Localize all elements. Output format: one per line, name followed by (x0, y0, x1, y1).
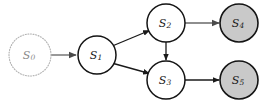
node-s3[interactable]: S3 (147, 61, 185, 99)
nodes-layer: S0S1S2S3S4S5 (9, 4, 258, 99)
node-label-base-s1: S (90, 49, 98, 62)
node-label-subscript-s4: 4 (239, 21, 245, 30)
node-label-subscript-s2: 2 (166, 21, 172, 30)
node-label-base-s5: S (232, 74, 240, 87)
node-s2[interactable]: S2 (147, 4, 185, 42)
node-label-subscript-s3: 3 (167, 78, 172, 87)
node-s1[interactable]: S1 (78, 36, 116, 74)
edge-s1-to-s3 (114, 64, 150, 74)
node-s4[interactable]: S4 (220, 4, 258, 42)
edge-s1-to-s2 (114, 31, 150, 46)
state-diagram-canvas: S0S1S2S3S4S5 (0, 0, 264, 106)
node-label-subscript-s1: 1 (98, 53, 103, 62)
node-label-base-s3: S (159, 74, 167, 87)
node-label-base-s2: S (159, 17, 167, 30)
node-label-subscript-s5: 5 (240, 78, 245, 87)
node-label-subscript-s0: 0 (31, 53, 36, 62)
node-label-base-s0: S (23, 49, 31, 62)
edges-layer (51, 23, 219, 80)
state-diagram-svg: S0S1S2S3S4S5 (0, 0, 264, 106)
node-label-base-s4: S (232, 17, 240, 30)
node-s0[interactable]: S0 (9, 34, 51, 76)
node-s5[interactable]: S5 (220, 61, 258, 99)
